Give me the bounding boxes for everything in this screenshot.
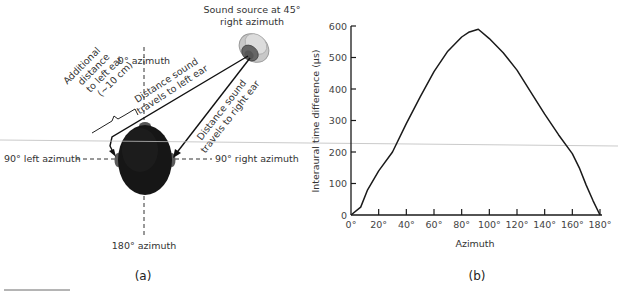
scan-line-artifact: [0, 140, 618, 146]
x-tick-label: 140°: [533, 219, 556, 230]
x-tick-label: 120°: [506, 219, 529, 230]
itd-curve: [351, 29, 600, 215]
x-tick-label: 180°: [589, 219, 612, 230]
y-tick-label: 500: [329, 52, 347, 63]
y-tick-label: 200: [329, 147, 347, 158]
x-tick-label: 60°: [426, 219, 443, 230]
x-tick-label: 0°: [346, 219, 357, 230]
chart-axes: 01002003004005006000°20°40°60°80°100°120…: [329, 21, 612, 231]
azimuth-180-label: 180° azimuth: [112, 240, 176, 251]
panel-b-chart: 01002003004005006000°20°40°60°80°100°120…: [310, 21, 611, 284]
x-tick-label: 80°: [453, 219, 470, 230]
x-axis-title: Azimuth: [455, 238, 494, 249]
y-tick-label: 300: [329, 115, 347, 126]
source-label-line2: right azimuth: [220, 16, 284, 27]
right-ear-arrowhead: [173, 149, 181, 158]
source-label-line1: Sound source at 45°: [204, 4, 301, 15]
y-axis-title: Interaural time difference (µs): [310, 49, 321, 192]
x-tick-label: 160°: [561, 219, 584, 230]
left-ear-arrowhead: [109, 149, 116, 157]
panel-a-diagram: Sound source at 45° right azimuth 0° azi…: [4, 4, 300, 290]
head-icon: [115, 122, 176, 195]
x-tick-label: 100°: [478, 219, 501, 230]
y-tick-label: 400: [329, 84, 347, 95]
additional-distance-bracket: [92, 109, 138, 133]
y-tick-label: 100: [329, 178, 347, 189]
figure: Sound source at 45° right azimuth 0° azi…: [0, 0, 618, 292]
speaker-icon: [233, 28, 274, 68]
panel-a-label: (a): [135, 269, 152, 283]
x-tick-label: 20°: [370, 219, 387, 230]
y-tick-label: 600: [329, 21, 347, 32]
azimuth-90-left-label: 90° left azimuth: [4, 153, 81, 164]
x-tick-label: 40°: [398, 219, 415, 230]
panel-b-label: (b): [469, 269, 486, 283]
azimuth-90-right-label: 90° right azimuth: [215, 153, 299, 164]
